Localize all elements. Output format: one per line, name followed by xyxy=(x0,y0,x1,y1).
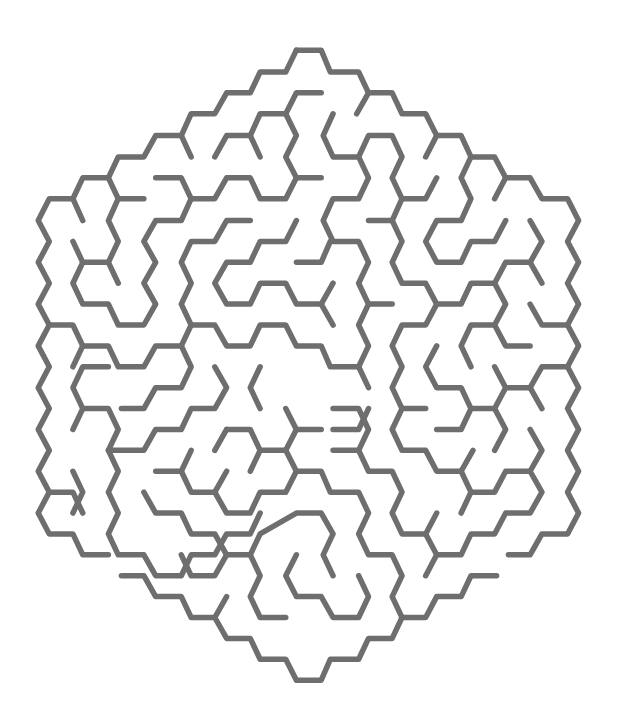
maze-wall xyxy=(530,304,567,325)
maze-wall xyxy=(321,304,333,325)
maze-wall xyxy=(73,367,227,451)
maze-wall xyxy=(530,388,542,409)
maze-wall xyxy=(426,136,437,157)
maze-wall xyxy=(250,450,260,471)
maze-wall xyxy=(495,409,506,451)
maze-wall xyxy=(215,471,227,492)
maze-wall xyxy=(495,178,506,199)
maze-wall xyxy=(392,221,542,305)
maze-wall xyxy=(296,241,330,262)
maze-wall xyxy=(156,178,297,199)
maze-wall xyxy=(461,325,495,367)
maze-wall xyxy=(108,199,118,284)
maze-wall xyxy=(426,513,437,534)
maze-wall xyxy=(461,450,473,471)
maze-wall xyxy=(73,199,83,221)
maze-wall xyxy=(73,409,83,430)
maze-wall xyxy=(215,429,227,450)
maze-wall xyxy=(250,367,260,409)
maze-wall xyxy=(495,283,530,346)
maze-wall xyxy=(73,346,83,367)
maze-wall xyxy=(426,157,506,262)
maze-wall xyxy=(471,367,568,409)
maze-wall xyxy=(215,597,227,618)
maze-wall xyxy=(144,492,250,555)
maze-wall xyxy=(286,409,321,430)
hexagonal-maze xyxy=(0,0,618,728)
maze-wall xyxy=(49,325,191,367)
maze-wall xyxy=(359,136,437,199)
maze-wall xyxy=(286,429,297,450)
maze-wall xyxy=(495,367,506,388)
maze-wall xyxy=(333,429,542,554)
maze-image xyxy=(0,0,618,728)
maze-wall xyxy=(108,178,143,199)
maze-wall xyxy=(286,114,321,178)
maze-wall xyxy=(530,262,542,283)
maze-wall xyxy=(73,241,108,262)
maze-wall xyxy=(357,93,369,114)
maze-wall xyxy=(286,450,297,471)
maze-wall xyxy=(49,492,83,513)
maze-wall xyxy=(121,576,496,680)
maze-wall xyxy=(227,429,286,450)
maze-wall xyxy=(369,199,403,221)
maze-wall xyxy=(426,555,437,576)
maze-wall xyxy=(461,471,471,492)
maze-wall xyxy=(156,450,191,471)
maze-wall xyxy=(181,136,191,157)
maze-wall xyxy=(215,93,321,157)
maze-wall xyxy=(250,136,260,157)
maze-wall xyxy=(250,555,285,618)
maze-wall xyxy=(121,346,191,409)
